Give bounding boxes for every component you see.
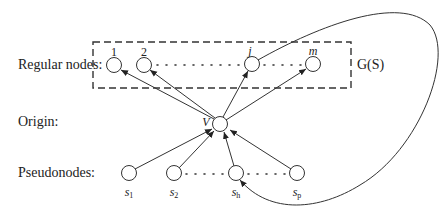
diagram-canvas: [0, 0, 447, 223]
node-m: [306, 57, 321, 72]
ellipsis-dots: [157, 65, 302, 174]
row-label-pseudo: Pseudonodes:: [18, 166, 95, 180]
node-origin-v: [213, 117, 228, 132]
node-2: [137, 58, 152, 73]
group-label: G(S): [357, 58, 384, 72]
label-sp: sp: [293, 186, 302, 202]
label-node-2: 2: [141, 46, 147, 58]
node-sh: [229, 166, 244, 181]
label-origin-v: V: [202, 116, 209, 128]
node-s1: [122, 166, 137, 181]
node-s2: [167, 166, 182, 181]
label-node-j: j: [248, 45, 251, 57]
label-node-1: 1: [111, 46, 117, 58]
label-sh: sh: [232, 186, 241, 202]
label-node-m: m: [309, 45, 318, 57]
row-label-origin: Origin:: [18, 115, 58, 129]
node-sp: [290, 166, 305, 181]
label-s1: s1: [125, 186, 134, 202]
edges-pseudo-to-origin: [135, 129, 291, 169]
node-j: [245, 57, 260, 72]
label-s2: s2: [170, 186, 179, 202]
edges-origin-to-regular: [121, 69, 306, 120]
row-label-regular: Regular nodes:: [18, 58, 102, 72]
node-1: [107, 58, 122, 73]
